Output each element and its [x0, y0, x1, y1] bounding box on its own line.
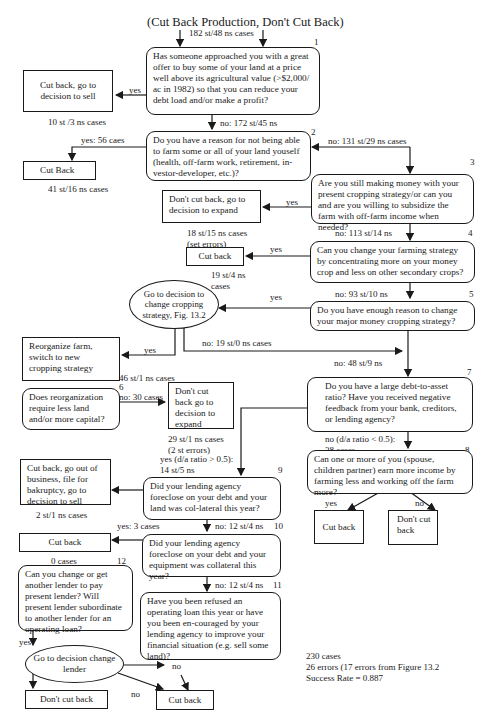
node-number-7: 7	[467, 367, 472, 377]
outcome-cut-back-12: Cut back	[156, 690, 214, 710]
question-11-refused-loan: Have you been refused an operating loan …	[140, 592, 281, 660]
node-number-4: 4	[468, 228, 473, 238]
o3-count-label: 18 st/15 ns cases	[187, 228, 247, 239]
question-10-equipment-foreclose: Did your lending agency foreclose on you…	[142, 534, 281, 577]
node-number-5: 5	[469, 289, 474, 299]
node-number-1: 1	[314, 37, 319, 47]
q7-no-label-1: no (d/a ratio < 0.5):	[325, 434, 395, 445]
o12-no-label-2: no	[131, 689, 140, 700]
o5-no-label: no: 19 st/0 ns cases	[202, 338, 272, 349]
q8-yes-label: yes	[325, 498, 337, 509]
outcome-dont-cut-back-8: Don't cut back	[388, 510, 438, 545]
q6-no-label: no: 30 cases	[119, 392, 163, 403]
node-number-9: 9	[278, 465, 283, 475]
summary-cases: 230 cases	[306, 651, 341, 662]
o4-count-label-1: 19 st/4 ns	[211, 270, 246, 281]
q10-no-label: no: 12 st/4 ns	[215, 580, 263, 591]
summary-errors: 26 errors (17 errors from Figure 13.2	[306, 662, 439, 673]
o2-count-label: 41 st/16 ns cases	[48, 184, 108, 195]
question-9-land-foreclose: Did your lending agency foreclose on you…	[143, 477, 281, 520]
entry-count-label: 182 st/48 ns cases	[189, 28, 254, 39]
o5-yes-label: yes	[144, 345, 156, 356]
q7-yes-label-1: yes (d/a ratio > 0.5):	[160, 454, 233, 465]
o9-count-label: 2 st/1 ns cases	[36, 510, 87, 521]
q7-yes-label-2: 14 st/5 ns	[160, 465, 195, 476]
node-number-2: 2	[311, 127, 316, 137]
q5-yes-label: yes	[270, 292, 282, 303]
q12-yes-label: yes	[19, 637, 31, 648]
q4-yes-label: yes	[270, 244, 282, 255]
question-3-making-money: Are you still making money with your pre…	[311, 174, 474, 224]
o1-count-label: 10 st /3 ns cases	[48, 117, 106, 128]
node-number-10: 10	[274, 521, 283, 531]
q2-no-label: no: 131 st/29 ns cases	[328, 136, 407, 147]
o4-count-label-2: cases	[211, 281, 230, 292]
outcome-cut-back-2: Cut Back	[23, 161, 96, 180]
q4-no-label: no: 93 st/10 ns	[335, 289, 388, 300]
outcome-goto-change-lender: Go to decision change lender	[25, 645, 124, 683]
q2-yes-label: yes: 56 caes	[81, 135, 124, 146]
q9-no-label: no: 12 st/4 ns	[215, 521, 263, 532]
outcome-dont-cut-back-12: Don't cut back	[25, 690, 108, 709]
node-number-6: 6	[119, 382, 124, 392]
question-12-change-lender: Can you change or get another lender to …	[18, 565, 133, 631]
outcome-reorganize-farm: Reorganize farm, switch to new cropping …	[22, 337, 120, 381]
o6-count-label: 46 st/1 ns cases	[119, 373, 175, 384]
q3-no-label: no: 113 st/14 ns	[335, 228, 392, 239]
question-1-land-offer: Has someone approached you with a great …	[146, 47, 320, 115]
outcome-cut-back-8: Cut back	[314, 510, 364, 544]
q5-no-label: no: 48 st/9 ns	[334, 358, 382, 369]
o7-count-label: 29 st/1 ns cases	[168, 434, 224, 445]
question-6-reorganization: Does reorganization require less land an…	[22, 388, 120, 430]
outcome-dont-cut-back-expand: Don't cut back, go to decision to expand	[162, 190, 261, 223]
q1-yes-label: yes	[129, 85, 141, 96]
q9-yes-label: yes: 3 cases	[117, 521, 160, 532]
o12-no-label-1: no	[172, 661, 181, 672]
outcome-cut-back-10: Cut back	[19, 533, 111, 552]
question-5-reason-change: Do you have enough reason to change your…	[310, 301, 475, 331]
question-7-debt-ratio: Do you have a large debt-to-asset ratio?…	[307, 377, 473, 432]
question-2-unable-to-farm: Do you have a reason for not being able …	[146, 131, 311, 181]
question-4-change-strategy: Can you change your farming strategy by …	[310, 241, 475, 283]
outcome-dont-cut-back-expand-2: Don't cut back go to decision to expand	[168, 382, 234, 429]
outcome-goto-change-cropping: Go to decision to change cropping strate…	[129, 280, 219, 329]
summary-success-rate: Success Rate = 0.887	[306, 673, 383, 684]
outcome-cut-back-sell: Cut back, go to decision to sell	[23, 70, 113, 112]
outcome-cut-back-bankruptcy: Cut back, go out of business, file for b…	[20, 459, 111, 505]
q3-yes-label: yes	[286, 197, 298, 208]
q1-no-label: no: 172 st/45 ns	[220, 118, 277, 129]
q8-no-label: no	[415, 498, 424, 509]
question-8-off-farm-income: Can one or more of you (spouse, children…	[307, 450, 473, 494]
node-number-11: 11	[273, 580, 282, 590]
outcome-cut-back-4: Cut back	[186, 247, 244, 266]
node-number-3: 3	[470, 157, 475, 167]
